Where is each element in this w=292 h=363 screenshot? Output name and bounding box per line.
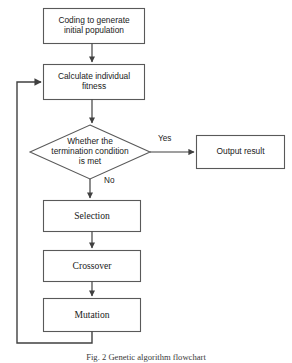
node-mutation-shape xyxy=(44,299,141,332)
edge-label-no: No xyxy=(104,176,114,185)
node-coding-shape xyxy=(44,9,145,44)
flowchart-canvas: Coding to generate initial population Ca… xyxy=(0,0,292,363)
node-output-shape xyxy=(197,136,285,169)
figure-caption: Fig. 2 Genetic algorithm flowchart xyxy=(0,352,292,363)
node-termination-shape xyxy=(30,125,150,179)
node-calculate-shape xyxy=(44,65,145,100)
flowchart-graphics xyxy=(0,0,292,363)
node-selection-shape xyxy=(44,201,141,232)
edge-label-yes: Yes xyxy=(158,134,171,143)
node-crossover-shape xyxy=(44,251,141,282)
